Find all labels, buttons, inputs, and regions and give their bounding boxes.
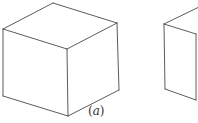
cube-b-edge-bottom-left	[165, 89, 196, 100]
label-letter: a	[93, 104, 100, 118]
cube-a-edge-vertical-right	[117, 23, 119, 90]
cube-b-edge-vertical-left	[164, 24, 165, 89]
label-close-paren: )	[100, 104, 105, 118]
cube-b-edge-top-left	[164, 7, 198, 24]
cube-a-edge-top-back	[53, 3, 117, 23]
cube-b-edge-top-front	[164, 24, 196, 34]
cube-a-edge-vertical-front	[67, 49, 68, 116]
cube-a-edge-bottom-left	[3, 96, 68, 116]
cube-a-edge-top-right	[67, 23, 117, 49]
cube-a	[3, 3, 119, 116]
cube-a-edge-top-left	[3, 3, 53, 29]
cube-a-edge-top-front	[3, 29, 67, 49]
cube-b	[164, 7, 198, 100]
panel-label-a: (a)	[88, 104, 105, 118]
